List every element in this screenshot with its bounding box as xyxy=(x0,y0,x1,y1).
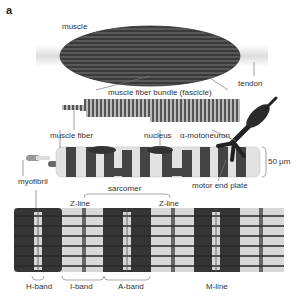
label-a-band: A-band xyxy=(118,282,144,291)
nucleus-1 xyxy=(88,146,116,154)
label-nucleus: nucleus xyxy=(144,131,172,140)
label-m-line: M-line xyxy=(206,282,228,291)
label-myofibril: myofibril xyxy=(18,177,48,186)
label-motor-end-plate: motor end plate xyxy=(192,181,248,190)
label-motoneuron: α-motoneuron xyxy=(180,131,230,140)
nucleus-2 xyxy=(147,146,173,154)
muscle-fiber xyxy=(26,146,260,177)
label-z-line-2: Z-line xyxy=(159,199,179,208)
label-scale: 50 µm xyxy=(268,157,290,166)
fascicle-bundle xyxy=(62,99,240,122)
label-muscle: muscle xyxy=(62,22,87,31)
label-z-line-1: Z-line xyxy=(70,199,90,208)
label-h-band: H-band xyxy=(26,282,52,291)
label-tendon: tendon xyxy=(238,79,262,88)
label-fascicle: muscle fiber bundle (fascicle) xyxy=(108,88,212,97)
label-sarcomere: sarcomer xyxy=(108,184,141,193)
myofibril-block xyxy=(14,208,284,272)
label-muscle-fiber: muscle fiber xyxy=(50,131,93,140)
muscle-structure-diagram xyxy=(0,0,298,303)
muscle-belly xyxy=(60,26,240,86)
label-i-band: I-band xyxy=(70,282,93,291)
